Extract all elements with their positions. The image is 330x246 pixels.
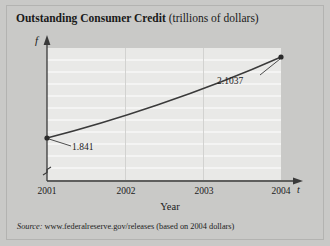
- data-label-end: 2.1037: [217, 76, 243, 86]
- y-axis-symbol: f: [35, 34, 40, 46]
- x-tick-label-2004: 2004: [272, 186, 291, 196]
- x-tick-label-2001: 2001: [38, 186, 57, 196]
- chart-plot: 1.841 2.1037 f t 2001 2002 2003 2004 Yea…: [0, 0, 330, 246]
- figure-container: Outstanding Consumer Credit (trillions o…: [0, 0, 330, 246]
- data-point-start: [44, 135, 49, 140]
- source-text: www.federalreserve.gov/releases (based o…: [45, 222, 235, 231]
- x-tick-label-2003: 2003: [195, 186, 214, 196]
- y-axis-arrowhead: [44, 35, 51, 45]
- source-caption: Source: www.federalreserve.gov/releases …: [17, 222, 317, 232]
- source-label: Source:: [17, 222, 43, 231]
- plot-area-background: [47, 48, 281, 180]
- x-axis-symbol: t: [297, 184, 300, 195]
- data-label-start: 1.841: [72, 142, 94, 152]
- x-axis-title: Year: [160, 201, 180, 212]
- data-point-end: [278, 54, 283, 59]
- x-tick-label-2002: 2002: [117, 186, 136, 196]
